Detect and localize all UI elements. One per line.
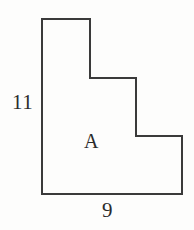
staircase-polygon-figure bbox=[0, 0, 194, 230]
staircase-polygon-outline bbox=[42, 19, 182, 194]
figure-canvas: 11 A 9 bbox=[0, 0, 194, 230]
bottom-side-length-label: 9 bbox=[102, 200, 113, 221]
left-side-length-label: 11 bbox=[12, 92, 33, 113]
region-label-a: A bbox=[84, 131, 98, 151]
